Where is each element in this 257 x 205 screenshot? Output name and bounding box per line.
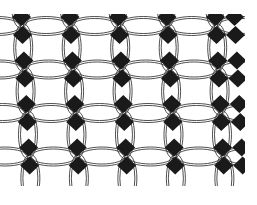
artwork-canvas: Interlocking Circles Lattice Pattern Mon… bbox=[0, 0, 257, 205]
lattice-pattern-svg: Interlocking Circles Lattice Pattern Mon… bbox=[0, 0, 257, 205]
